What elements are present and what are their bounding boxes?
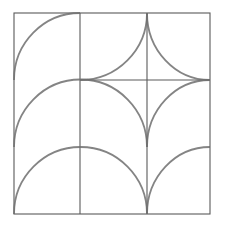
- arc-top-right: [147, 13, 210, 80]
- arc-middle-right: [147, 80, 210, 147]
- arc-top-left: [14, 13, 80, 80]
- arc-bottom-right: [147, 147, 210, 214]
- arcs: [14, 13, 210, 214]
- outer-square-frame: [14, 13, 210, 214]
- grid-lines: [80, 13, 210, 214]
- sketch-canvas: [0, 0, 226, 228]
- arc-top-middle: [80, 13, 147, 80]
- arc-grid-drawing: [0, 0, 226, 228]
